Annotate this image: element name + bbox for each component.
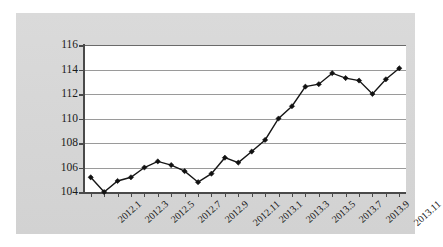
series-markers: [88, 66, 402, 195]
chart-canvas: 104106108110112114116 2012.12012.32012.5…: [16, 13, 415, 234]
data-point: [343, 75, 348, 80]
data-point: [169, 162, 174, 167]
series-line: [91, 68, 400, 192]
data-point: [155, 159, 160, 164]
x-tick-label-2013.11: 2013.11: [412, 199, 443, 228]
data-series: [16, 13, 415, 234]
